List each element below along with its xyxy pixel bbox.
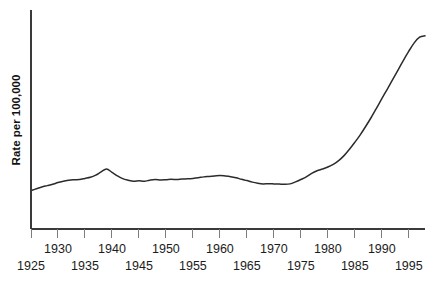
data-series-line xyxy=(31,36,425,191)
x-tick-label-1975: 1975 xyxy=(287,259,315,273)
x-tick-label-1940: 1940 xyxy=(98,242,126,256)
x-tick-label-1960: 1960 xyxy=(206,242,234,256)
x-tick-label-1955: 1955 xyxy=(179,259,207,273)
x-tick-label-1925: 1925 xyxy=(17,259,45,273)
chart-canvas: 1925193019351940194519501955196019651970… xyxy=(0,0,433,285)
x-tick-label-1980: 1980 xyxy=(314,242,342,256)
plot-area xyxy=(31,36,425,191)
x-tick-label-1965: 1965 xyxy=(233,259,261,273)
x-tick-label-1935: 1935 xyxy=(71,259,99,273)
x-tick-label-1985: 1985 xyxy=(341,259,369,273)
x-tick-label-1990: 1990 xyxy=(368,242,396,256)
x-tick-label-1995: 1995 xyxy=(395,259,423,273)
y-axis-title: Rate per 100,000 xyxy=(10,75,22,166)
x-tick-label-1930: 1930 xyxy=(44,242,72,256)
x-tick-label-1945: 1945 xyxy=(125,259,153,273)
line-chart: 1925193019351940194519501955196019651970… xyxy=(0,0,433,285)
axes xyxy=(31,10,425,229)
x-axis-tick-marks xyxy=(31,229,409,238)
x-tick-label-1970: 1970 xyxy=(260,242,288,256)
x-tick-label-1950: 1950 xyxy=(152,242,180,256)
x-axis-tick-labels: 1925193019351940194519501955196019651970… xyxy=(17,242,423,273)
